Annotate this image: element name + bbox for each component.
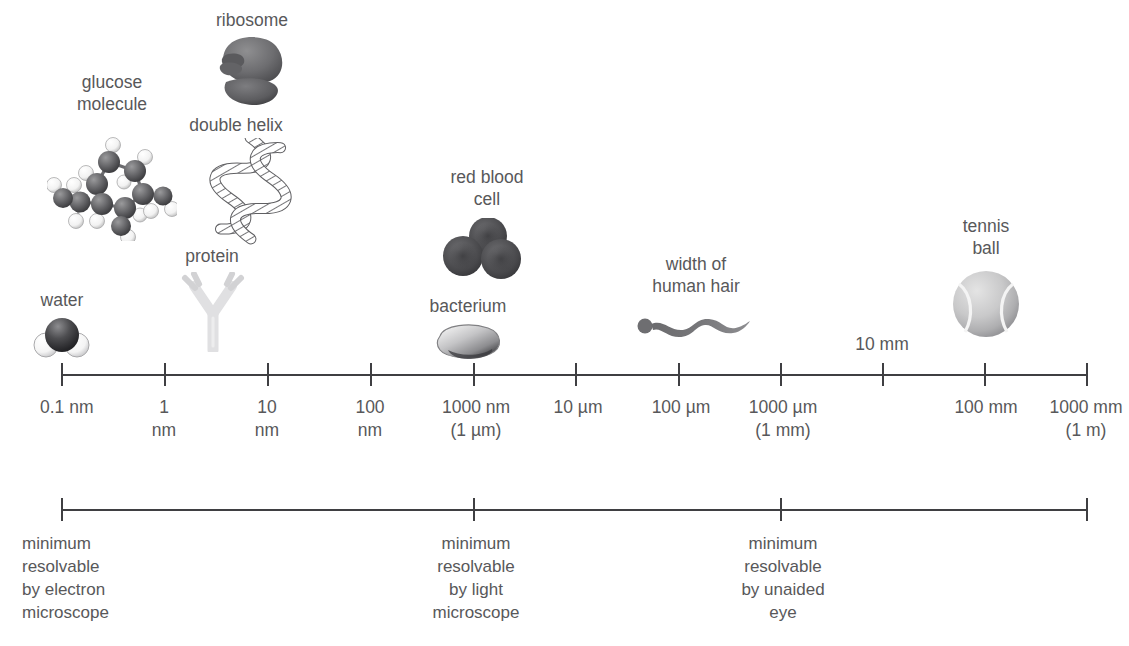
red-blood-cell-caption-line1: red blood	[451, 167, 524, 189]
water-caption: water	[41, 290, 84, 312]
resolution-tick-end	[1086, 498, 1088, 521]
axis-tick-3	[370, 363, 372, 386]
water-molecule-icon	[33, 314, 91, 360]
axis-label-7-line1: 1000 µm	[749, 396, 817, 418]
axis-tick-6	[678, 363, 680, 386]
double-helix-caption: double helix	[189, 115, 282, 137]
human-hair-caption-line1: width of	[666, 254, 726, 276]
tennis-ball-caption-line2: ball	[972, 238, 999, 260]
axis-label-4-line1: 1000 nm	[442, 396, 510, 418]
double-helix-icon	[203, 138, 308, 250]
axis-label-1-line1: 1	[159, 396, 169, 418]
resolution-tick-light	[473, 498, 475, 521]
axis-tick-0	[61, 363, 63, 386]
resolution-eye-line4: eye	[769, 602, 796, 625]
axis-label-3-line1: 100	[355, 396, 384, 418]
axis-tick-9	[984, 363, 986, 386]
axis-label-1-line2: nm	[152, 419, 176, 441]
resolution-axis-line	[61, 509, 1087, 511]
protein-caption: protein	[185, 246, 239, 268]
axis-label-5-line1: 10 µm	[554, 396, 603, 418]
axis-label-2-line2: nm	[255, 419, 279, 441]
resolution-electron-line3: by electron	[22, 579, 105, 602]
axis-label-6-line1: 100 µm	[652, 396, 711, 418]
axis-label-2-line1: 10	[257, 396, 276, 418]
resolution-electron-line1: minimum	[22, 533, 91, 556]
tennis-ball-caption-line1: tennis	[963, 216, 1010, 238]
axis-label-10mm-above: 10 mm	[855, 333, 908, 355]
human-hair-caption-line2: human hair	[652, 276, 740, 298]
axis-tick-4	[473, 363, 475, 386]
glucose-caption-line1: glucose	[82, 72, 142, 94]
axis-label-9-line1: 100 mm	[954, 396, 1017, 418]
axis-tick-2	[267, 363, 269, 386]
axis-tick-8	[882, 363, 884, 386]
axis-label-10-line1: 1000 mm	[1050, 396, 1123, 418]
protein-icon	[180, 272, 246, 352]
red-blood-cell-icon	[438, 218, 528, 286]
resolution-eye-line1: minimum	[749, 533, 818, 556]
main-axis-line	[61, 374, 1087, 376]
bacterium-caption: bacterium	[430, 296, 507, 318]
ribosome-caption: ribosome	[216, 10, 288, 32]
axis-tick-5	[575, 363, 577, 386]
resolution-electron-line2: resolvable	[22, 556, 100, 579]
resolution-tick-electron	[61, 498, 63, 521]
axis-label-10-line2: (1 m)	[1066, 419, 1107, 441]
axis-tick-10	[1086, 363, 1088, 386]
ribosome-icon	[208, 32, 298, 112]
resolution-light-line3: by light	[449, 579, 503, 602]
human-hair-icon	[637, 310, 753, 344]
resolution-eye-line2: resolvable	[744, 556, 822, 579]
resolution-tick-eye	[780, 498, 782, 521]
resolution-light-line2: resolvable	[437, 556, 515, 579]
resolution-electron-line4: microscope	[22, 602, 109, 625]
resolution-light-line1: minimum	[442, 533, 511, 556]
red-blood-cell-caption-line2: cell	[474, 189, 500, 211]
axis-label-7-line2: (1 mm)	[755, 419, 810, 441]
resolution-light-line4: microscope	[433, 602, 520, 625]
glucose-molecule-icon	[47, 136, 177, 241]
glucose-caption-line2: molecule	[77, 94, 147, 116]
resolution-eye-line3: by unaided	[741, 579, 824, 602]
axis-tick-1	[164, 363, 166, 386]
axis-tick-7	[780, 363, 782, 386]
axis-label-3-line2: nm	[358, 419, 382, 441]
tennis-ball-icon	[950, 268, 1022, 340]
bacterium-icon	[430, 320, 510, 362]
axis-label-4-line2: (1 µm)	[451, 419, 502, 441]
scale-diagram-figure: ribosome glucose molecule	[0, 0, 1129, 646]
axis-label-0: 0.1 nm	[40, 396, 94, 418]
